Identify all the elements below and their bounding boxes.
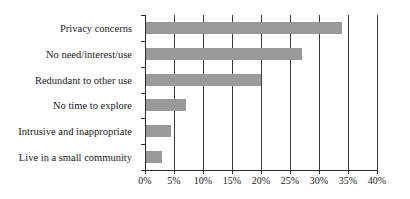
y-axis-tick <box>141 93 146 94</box>
bar <box>145 48 302 60</box>
category-label: No need/interest/use <box>46 48 132 59</box>
x-axis-tick-label: 20% <box>252 175 270 187</box>
x-axis-tick-label: 25% <box>281 175 299 187</box>
category-label: Intrusive and inappropriate <box>18 126 132 137</box>
x-axis-tick-label: 5% <box>167 175 180 187</box>
category-label: Redundant to other use <box>35 74 132 85</box>
x-axis-tick <box>232 170 233 174</box>
x-axis-tick-label: 0% <box>138 175 151 187</box>
x-axis-tick <box>203 170 204 174</box>
gridline <box>377 15 378 170</box>
category-axis-labels: Privacy concernsNo need/interest/useRedu… <box>0 15 138 170</box>
y-axis-tick <box>141 67 146 68</box>
bar <box>145 99 186 111</box>
gridline <box>319 15 320 170</box>
bar <box>145 151 162 163</box>
gridline <box>232 15 233 170</box>
gridline <box>290 15 291 170</box>
x-axis-tick <box>348 170 349 174</box>
category-label: Live in a small community <box>19 152 132 163</box>
gridline <box>174 15 175 170</box>
x-axis-tick <box>319 170 320 174</box>
bar <box>145 74 261 86</box>
x-axis-tick-label: 35% <box>339 175 357 187</box>
bar-chart: Privacy concernsNo need/interest/useRedu… <box>0 0 410 199</box>
bar <box>145 22 342 34</box>
x-axis-tick-label: 30% <box>310 175 328 187</box>
plot-area <box>145 15 377 170</box>
gridline <box>261 15 262 170</box>
x-axis-tick <box>377 170 378 174</box>
x-axis-tick-label: 40% <box>368 175 386 187</box>
category-label: Privacy concerns <box>60 22 132 33</box>
y-axis-tick <box>141 41 146 42</box>
x-axis-tick <box>261 170 262 174</box>
bar <box>145 125 171 137</box>
category-label: No time to explore <box>53 100 132 111</box>
x-axis-tick-label: 15% <box>223 175 241 187</box>
y-axis-tick <box>141 118 146 119</box>
y-axis-tick <box>141 15 146 16</box>
gridline <box>203 15 204 170</box>
x-axis-tick <box>290 170 291 174</box>
x-axis-tick-label: 10% <box>194 175 212 187</box>
x-axis-tick <box>145 170 146 174</box>
gridline <box>348 15 349 170</box>
y-axis-tick <box>141 144 146 145</box>
x-axis-tick <box>174 170 175 174</box>
